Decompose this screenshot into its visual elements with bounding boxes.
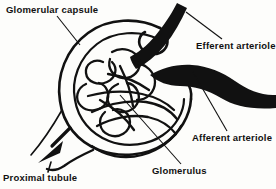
label-proximal-tubule: Proximal tubule bbox=[3, 173, 77, 183]
leader-glomerular-capsule bbox=[57, 16, 80, 45]
glomerulus-group bbox=[77, 49, 177, 136]
capsule-outer-wall bbox=[59, 21, 191, 155]
glomerulus-strand-6 bbox=[120, 66, 133, 106]
filtrate-flow-arrow bbox=[38, 128, 70, 163]
label-glomerular-capsule: Glomerular capsule bbox=[6, 5, 98, 15]
label-efferent-arteriole: Efferent arteriole bbox=[196, 41, 276, 51]
label-afferent-arteriole: Afferent arteriole bbox=[192, 133, 272, 143]
figure-canvas bbox=[0, 0, 276, 189]
glomerulus-strand-3 bbox=[97, 116, 176, 134]
anatomy-figure: Glomerular capsule Efferent arteriole Af… bbox=[0, 0, 276, 189]
flow-arrow-head bbox=[38, 141, 63, 163]
afferent-arteriole-group bbox=[150, 65, 276, 109]
afferent-arteriole-vessel bbox=[150, 65, 276, 109]
label-glomerulus: Glomerulus bbox=[152, 166, 207, 176]
leader-efferent-arteriole bbox=[186, 12, 222, 39]
